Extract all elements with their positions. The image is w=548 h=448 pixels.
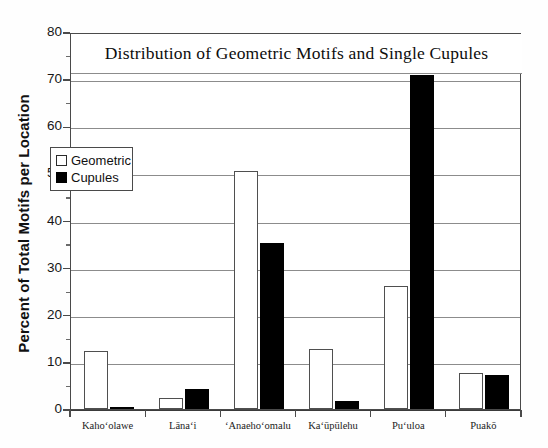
bar-cupules <box>185 389 209 409</box>
bar-cupules <box>410 75 434 409</box>
y-tick-mark <box>63 221 70 222</box>
y-tick-label: 60 <box>16 118 62 133</box>
y-tick-mark <box>63 127 70 128</box>
x-tick-mark <box>145 410 146 417</box>
legend-item-cupules: Cupules <box>56 169 127 186</box>
x-tick-mark <box>220 410 221 417</box>
x-tick-mark <box>295 410 296 417</box>
bar-geometric <box>84 351 108 409</box>
y-tick-mark <box>63 79 70 80</box>
y-tick-label: 10 <box>16 354 62 369</box>
legend-swatch-filled-square-icon <box>56 172 67 183</box>
x-tick-label: Puakō <box>423 420 543 431</box>
legend-label-geometric: Geometric <box>71 153 131 168</box>
bar-cupules <box>485 375 509 409</box>
plot-area: Distribution of Geometric Motifs and Sin… <box>70 33 521 410</box>
y-tick-mark <box>63 315 70 316</box>
y-tick-mark <box>63 362 70 363</box>
bar-geometric <box>384 286 408 409</box>
y-tick-mark <box>63 32 70 33</box>
y-tick-label: 20 <box>16 307 62 322</box>
legend-item-geometric: Geometric <box>56 152 127 169</box>
y-tick-label: 0 <box>16 401 62 416</box>
chart-figure: Percent of Total Motifs per Location 010… <box>0 0 548 448</box>
y-tick-label: 80 <box>16 24 62 39</box>
y-tick-label: 30 <box>16 260 62 275</box>
bar-cupules <box>260 243 284 409</box>
y-tick-label: 40 <box>16 213 62 228</box>
legend-label-cupules: Cupules <box>71 170 119 185</box>
bar-geometric <box>309 349 333 409</box>
bar-geometric <box>459 373 483 409</box>
x-tick-mark <box>69 410 70 417</box>
x-tick-mark <box>370 410 371 417</box>
x-tick-mark <box>445 410 446 417</box>
bar-geometric <box>234 171 258 409</box>
y-tick-label: 70 <box>16 71 62 86</box>
legend-swatch-open-square-icon <box>56 155 67 166</box>
bar-cupules <box>335 401 359 409</box>
x-tick-mark <box>520 410 521 417</box>
bar-geometric <box>159 398 183 409</box>
chart-legend: Geometric Cupules <box>50 147 133 191</box>
y-tick-mark <box>63 268 70 269</box>
bars-layer <box>71 34 520 409</box>
